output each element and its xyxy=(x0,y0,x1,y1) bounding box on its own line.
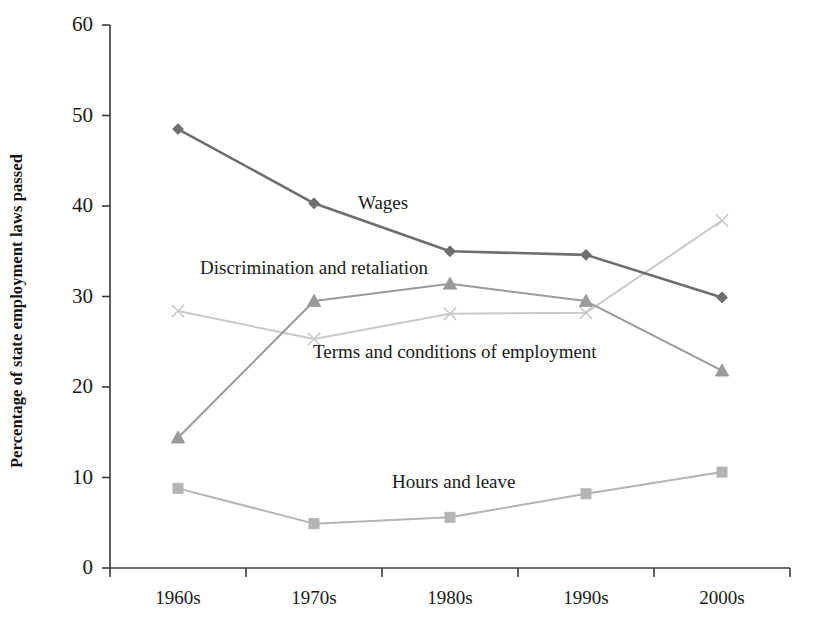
y-tick-label: 0 xyxy=(47,557,93,578)
y-tick-label: 60 xyxy=(47,14,93,35)
y-tick-label: 40 xyxy=(47,195,93,216)
series-label-terms: Terms and conditions of employment xyxy=(313,342,597,361)
line-chart-figure: Percentage of state employment laws pass… xyxy=(0,0,834,622)
series-label-hours: Hours and leave xyxy=(392,472,515,491)
y-tick-label: 30 xyxy=(47,286,93,307)
chart-axes xyxy=(102,25,790,577)
x-tick-label: 1970s xyxy=(249,588,379,607)
x-tick-label: 1980s xyxy=(385,588,515,607)
chart-plot-area xyxy=(0,0,834,622)
series-label-wages: Wages xyxy=(358,193,408,212)
y-tick-label: 10 xyxy=(47,467,93,488)
series-label-discrimination: Discrimination and retaliation xyxy=(200,258,428,277)
x-tick-label: 1990s xyxy=(521,588,651,607)
chart-series-layer xyxy=(171,124,728,529)
x-tick-label: 1960s xyxy=(113,588,243,607)
y-tick-label: 20 xyxy=(47,376,93,397)
x-tick-label: 2000s xyxy=(657,588,787,607)
y-tick-label: 50 xyxy=(47,105,93,126)
